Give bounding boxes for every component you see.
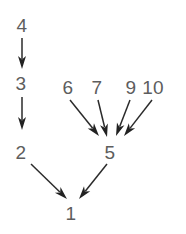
arrowhead-icon xyxy=(124,123,135,136)
edge-5-to-1 xyxy=(79,164,107,199)
node-label-4: 4 xyxy=(17,15,28,36)
nodes-layer: 1234567910 xyxy=(16,15,164,224)
edges-layer xyxy=(18,38,152,199)
edge-line xyxy=(130,100,152,128)
diagram-canvas: 1234567910 xyxy=(0,0,186,234)
node-label-1: 1 xyxy=(66,203,77,224)
edge-line xyxy=(120,100,130,127)
node-label-6: 6 xyxy=(63,77,74,98)
edge-2-to-1 xyxy=(31,164,67,199)
edge-line xyxy=(31,164,60,192)
edge-3-to-2 xyxy=(18,97,26,130)
edge-line xyxy=(98,100,105,127)
node-label-5: 5 xyxy=(105,142,116,163)
edge-7-to-5 xyxy=(98,100,108,137)
node-label-2: 2 xyxy=(16,142,27,163)
edge-4-to-3 xyxy=(18,38,26,69)
node-label-9: 9 xyxy=(126,77,137,98)
node-label-10: 10 xyxy=(142,77,164,98)
node-label-7: 7 xyxy=(92,77,103,98)
edge-line xyxy=(85,164,107,191)
edge-6-to-5 xyxy=(70,100,99,136)
directed-graph: 1234567910 xyxy=(0,0,186,234)
edge-line xyxy=(70,100,93,128)
node-label-3: 3 xyxy=(16,73,27,94)
